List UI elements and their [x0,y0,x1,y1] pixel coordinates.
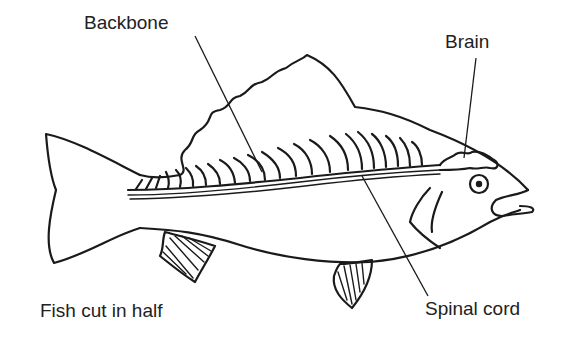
backbone-leader-line [195,36,262,172]
tail-fin [46,134,140,263]
fish-body-bottom [140,210,520,262]
backbone-label: Backbone [84,12,169,34]
eye-pupil [476,181,482,187]
brain-label: Brain [445,31,489,53]
spinal-cord-leader-line [362,176,428,296]
diagram-caption: Fish cut in half [40,300,163,322]
gill-line [432,192,442,232]
gill-cover [410,188,440,248]
spinal-cord-label: Spinal cord [425,298,520,320]
anal-fin [334,260,372,308]
pelvic-fin [160,232,215,282]
fish-body-top [140,55,528,190]
backbone [128,132,440,199]
brain-leader-line [464,58,476,158]
brain-shape [440,152,497,170]
